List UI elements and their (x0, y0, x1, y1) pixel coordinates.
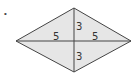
label-left-5: 5 (53, 31, 59, 42)
rhombus-figure: 5 5 3 3 (0, 0, 137, 81)
label-bottom-3: 3 (76, 51, 82, 62)
label-top-3: 3 (76, 21, 82, 32)
label-right-5: 5 (92, 31, 98, 42)
